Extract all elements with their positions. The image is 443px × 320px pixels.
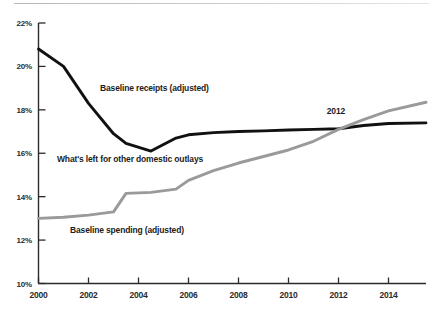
y-axis-tick-label: 10% <box>8 279 32 288</box>
annotation-other-domestic-outlays: What's left for other domestic outlays <box>57 154 203 164</box>
series-line-receipts <box>39 49 427 151</box>
x-axis-ticks <box>39 278 389 284</box>
x-axis-tick-label: 2012 <box>319 290 359 300</box>
x-axis-tick-label: 2014 <box>369 290 409 300</box>
annotation-baseline-spending: Baseline spending (adjusted) <box>70 225 184 235</box>
y-axis-ticks <box>39 23 46 284</box>
y-axis-tick-label: 22% <box>8 19 32 28</box>
y-axis-tick-label: 20% <box>8 62 32 71</box>
chart-figure: 10%12%14%16%18%20%22% 200020022004200620… <box>0 0 443 320</box>
y-axis-tick-label: 18% <box>8 105 32 114</box>
y-axis-tick-label: 14% <box>8 192 32 201</box>
x-axis-tick-label: 2010 <box>269 290 309 300</box>
x-axis-tick-label: 2004 <box>119 290 159 300</box>
callout-2012: 2012 <box>327 106 346 116</box>
x-axis-tick-label: 2006 <box>169 290 209 300</box>
y-axis-tick-label: 16% <box>8 149 32 158</box>
x-axis-tick-label: 2000 <box>19 290 59 300</box>
x-axis-tick-label: 2008 <box>219 290 259 300</box>
y-axis-tick-label: 12% <box>8 236 32 245</box>
data-series-lines <box>39 49 427 218</box>
x-axis-tick-label: 2002 <box>69 290 109 300</box>
annotation-baseline-receipts: Baseline receipts (adjusted) <box>100 83 209 93</box>
